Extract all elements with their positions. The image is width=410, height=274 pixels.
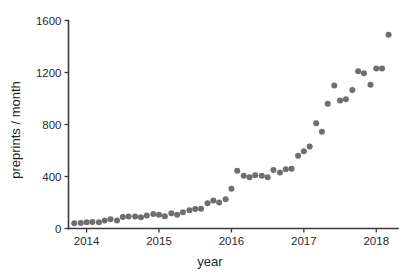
data-point: [349, 87, 355, 93]
data-point: [325, 101, 331, 107]
data-point: [265, 174, 271, 180]
data-point: [150, 211, 156, 217]
y-tick-label: 400: [42, 171, 61, 183]
data-point: [319, 129, 325, 135]
data-point: [114, 217, 120, 223]
data-point: [71, 220, 77, 226]
data-point: [108, 216, 114, 222]
data-point: [234, 168, 240, 174]
data-point: [120, 214, 126, 220]
data-point: [337, 97, 343, 103]
data-point: [289, 166, 295, 172]
data-point: [367, 82, 373, 88]
data-points: [71, 32, 391, 227]
data-point: [259, 173, 265, 179]
data-point: [205, 200, 211, 206]
data-point: [198, 206, 204, 212]
data-point: [174, 212, 180, 218]
x-tick-label: 2018: [363, 235, 389, 247]
data-point: [301, 148, 307, 154]
x-tick-label: 2015: [146, 235, 172, 247]
data-point: [386, 32, 392, 38]
y-tick-label: 800: [42, 119, 61, 131]
data-point: [126, 214, 132, 220]
data-point: [138, 214, 144, 220]
data-point: [186, 207, 192, 213]
data-point: [89, 219, 95, 225]
data-point: [156, 212, 162, 218]
data-point: [96, 219, 102, 225]
data-point: [373, 66, 379, 72]
data-point: [283, 166, 289, 172]
data-point: [84, 219, 90, 225]
x-tick-label: 2017: [291, 235, 317, 247]
scatter-chart: 040080012001600 20142015201620172018 pre…: [0, 0, 410, 274]
data-point: [379, 66, 385, 72]
data-point: [162, 213, 168, 219]
x-axis: 20142015201620172018: [69, 229, 399, 247]
data-point: [313, 120, 319, 126]
data-point: [295, 153, 301, 159]
x-axis-title: year: [197, 254, 223, 269]
chart-canvas: 040080012001600 20142015201620172018 pre…: [0, 0, 410, 274]
data-point: [102, 217, 108, 223]
data-point: [331, 83, 337, 89]
data-point: [241, 173, 247, 179]
data-point: [132, 214, 138, 220]
data-point: [216, 200, 222, 206]
y-tick-label: 1200: [36, 67, 62, 79]
x-tick-label: 2016: [219, 235, 245, 247]
data-point: [180, 209, 186, 215]
data-point: [361, 70, 367, 76]
data-point: [228, 186, 234, 192]
data-point: [252, 172, 258, 178]
data-point: [343, 96, 349, 102]
y-axis-title: preprints / month: [8, 81, 23, 179]
data-point: [355, 68, 361, 74]
data-point: [307, 144, 313, 150]
y-axis: 040080012001600: [36, 15, 69, 235]
data-point: [168, 210, 174, 216]
data-point: [277, 170, 283, 176]
data-point: [144, 213, 150, 219]
data-point: [247, 174, 253, 180]
data-point: [210, 198, 216, 204]
y-tick-label: 0: [55, 223, 61, 235]
data-point: [223, 196, 229, 202]
data-point: [78, 220, 84, 226]
y-tick-label: 1600: [36, 15, 62, 27]
data-point: [270, 167, 276, 173]
x-tick-label: 2014: [74, 235, 100, 247]
data-point: [192, 206, 198, 212]
